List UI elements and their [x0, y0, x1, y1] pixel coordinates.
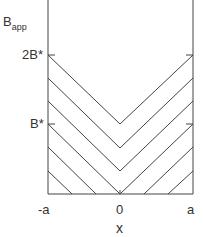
field-profile-plot [0, 0, 203, 237]
